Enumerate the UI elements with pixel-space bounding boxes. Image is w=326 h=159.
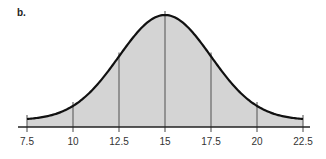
x-tick-label: 22.5 xyxy=(293,136,313,147)
x-tick-label: 10 xyxy=(67,136,79,147)
x-tick-label: 12.5 xyxy=(109,136,129,147)
x-tick-labels: 7.51012.51517.52022.5 xyxy=(20,136,313,147)
x-tick-label: 15 xyxy=(159,136,171,147)
x-tick-label: 17.5 xyxy=(201,136,221,147)
x-tick-label: 20 xyxy=(251,136,263,147)
x-tick-label: 7.5 xyxy=(20,136,34,147)
normal-curve-chart: 7.51012.51517.52022.5 xyxy=(0,0,326,159)
